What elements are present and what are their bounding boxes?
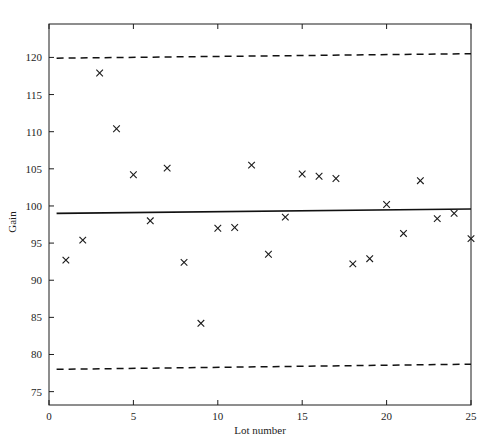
y-axis-title: Gain <box>6 211 18 233</box>
y-tick-label: 90 <box>31 274 43 286</box>
chart-background <box>0 0 491 447</box>
chart-canvas: 7580859095100105110115120 0510152025 Lot… <box>0 0 491 447</box>
x-tick-label: 0 <box>46 410 52 422</box>
x-tick-label: 20 <box>381 410 393 422</box>
x-axis-title: Lot number <box>234 424 286 436</box>
gain-control-chart: 7580859095100105110115120 0510152025 Lot… <box>0 0 491 447</box>
x-tick-label: 25 <box>466 410 478 422</box>
y-tick-label: 85 <box>31 311 43 323</box>
x-tick-label: 5 <box>131 410 137 422</box>
y-tick-label: 75 <box>31 386 43 398</box>
y-tick-label: 95 <box>31 237 43 249</box>
y-tick-label: 120 <box>26 51 43 63</box>
y-tick-label: 100 <box>26 200 43 212</box>
y-tick-label: 80 <box>31 348 43 360</box>
y-tick-label: 105 <box>26 163 43 175</box>
y-tick-label: 115 <box>26 89 43 101</box>
x-tick-label: 15 <box>297 410 309 422</box>
y-tick-label: 110 <box>26 126 43 138</box>
x-tick-label: 10 <box>212 410 224 422</box>
